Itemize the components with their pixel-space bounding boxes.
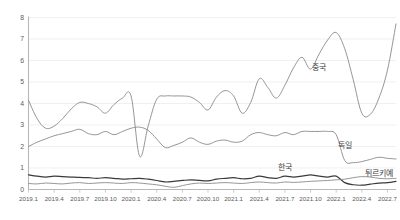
- series-label: 튀르키예: [365, 168, 393, 178]
- y-tick-labels-group: 012345678: [20, 14, 24, 193]
- x-tick-label: 2019.10: [94, 195, 117, 202]
- x-tick-label: 2021.7: [275, 195, 294, 202]
- x-tick-label: 2019.4: [45, 195, 64, 202]
- x-tick-label: 2020.10: [197, 195, 220, 202]
- y-tick-label: 0: [20, 186, 24, 193]
- x-tick-label: 2020.1: [122, 195, 141, 202]
- x-tick-label: 2022.1: [327, 195, 346, 202]
- series-line: [29, 24, 397, 157]
- x-tick-label: 2022.7: [378, 195, 397, 202]
- series-labels-group: 중국독일한국튀르키예: [278, 63, 393, 178]
- x-tick-label: 2019.7: [70, 195, 89, 202]
- chart-plot-area: 012345678 2019.12019.42019.72019.102020.…: [0, 0, 400, 220]
- x-tick-label: 2021.1: [224, 195, 243, 202]
- y-tick-label: 5: [20, 78, 24, 85]
- x-tick-label: 2020.7: [173, 195, 192, 202]
- series-label: 중국: [312, 63, 326, 72]
- series-label: 한국: [278, 163, 292, 172]
- y-tick-label: 8: [20, 14, 24, 21]
- x-tick-labels-group: 2019.12019.42019.72019.102020.12020.4202…: [19, 195, 397, 202]
- line-chart: 012345678 2019.12019.42019.72019.102020.…: [0, 0, 400, 220]
- data-series-group: [29, 24, 397, 187]
- x-tick-label: 2022.4: [352, 195, 371, 202]
- y-tick-label: 7: [20, 35, 24, 42]
- x-tick-label: 2021.10: [299, 195, 322, 202]
- x-tick-label: 2019.1: [19, 195, 38, 202]
- x-tick-label: 2020.4: [147, 195, 166, 202]
- y-tick-label: 6: [20, 57, 24, 64]
- x-tick-label: 2021.4: [250, 195, 269, 202]
- y-tick-label: 4: [20, 100, 24, 107]
- series-label: 독일: [338, 141, 352, 150]
- y-tick-label: 2: [20, 143, 24, 150]
- y-tick-label: 1: [20, 164, 24, 171]
- y-tick-label: 3: [20, 121, 24, 128]
- series-line: [29, 177, 397, 188]
